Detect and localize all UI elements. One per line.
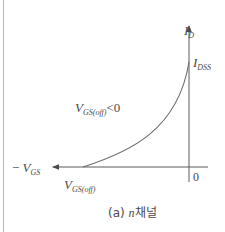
figure-caption: (a) n채널 bbox=[108, 203, 157, 221]
vgs-off-label: VGS(off) bbox=[64, 178, 96, 194]
idss-label: IDSS bbox=[193, 56, 211, 72]
condition-label: VGS(off)<0 bbox=[75, 101, 120, 117]
vgs-axis-label: − VGS bbox=[12, 161, 40, 177]
id-axis-label: ID bbox=[184, 24, 194, 40]
origin-label: 0 bbox=[193, 171, 199, 183]
